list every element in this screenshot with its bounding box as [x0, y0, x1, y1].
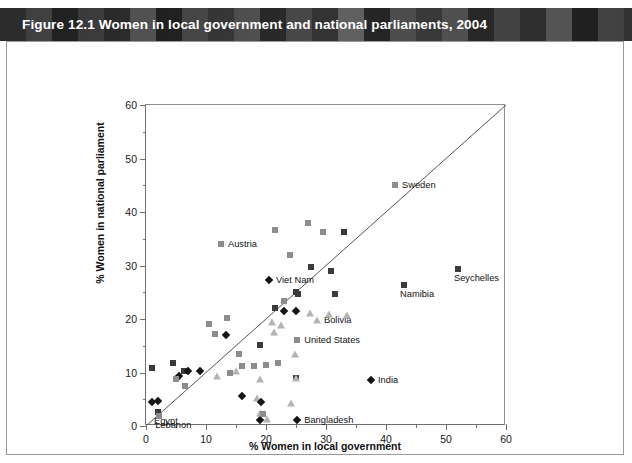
y-axis-tick-label: 30 — [125, 260, 137, 272]
data-point-africa — [308, 264, 314, 270]
data-point-developed-regions — [320, 229, 326, 235]
data-point-developed-regions — [218, 241, 224, 247]
x-axis-minor-tick — [236, 424, 237, 428]
data-point-africa — [341, 229, 347, 235]
data-point-developed-regions — [206, 321, 212, 327]
data-point-label: Bangladesh — [304, 415, 353, 425]
data-point-developed-regions — [236, 351, 242, 357]
data-point-latin-america-and-the-caribbean — [270, 329, 278, 336]
y-axis-minor-tick — [143, 132, 147, 133]
data-point-latin-america-and-the-caribbean — [213, 373, 221, 380]
data-point-africa — [455, 266, 461, 272]
data-point-label: Namibia — [400, 289, 434, 299]
x-axis-tick-label: 40 — [380, 433, 392, 445]
figure-title: Figure 12.1 Women in local government an… — [22, 17, 487, 32]
data-point-developed-regions — [275, 360, 281, 366]
x-axis-tick — [506, 424, 507, 430]
x-axis-minor-tick — [356, 424, 357, 428]
data-point-africa — [257, 342, 263, 348]
data-point-developed-regions — [305, 220, 311, 226]
x-axis-tick — [326, 424, 327, 430]
x-axis-tick-label: 60 — [500, 433, 512, 445]
y-axis-tick — [140, 373, 146, 374]
data-point-africa — [170, 360, 176, 366]
data-point-latin-america-and-the-caribbean — [313, 317, 321, 324]
data-point-africa — [272, 305, 278, 311]
y-axis-tick — [140, 159, 146, 160]
data-point-developed-regions — [260, 411, 266, 417]
data-point-developed-regions — [156, 413, 162, 419]
data-point-latin-america-and-the-caribbean — [268, 318, 276, 325]
figure-page: Figure 12.1 Women in local government an… — [0, 0, 632, 463]
data-point-developed-regions — [251, 363, 257, 369]
data-point-label: Lebanon — [155, 420, 191, 430]
data-point-developed-regions — [212, 331, 218, 337]
figure-card: % Women in national parliament % Women i… — [6, 41, 624, 455]
scatter-plot-area: 01020304050600102030405060EgyptNamibiaSe… — [145, 104, 505, 425]
x-axis-tick-label: 0 — [143, 433, 149, 445]
y-axis-minor-tick — [143, 185, 147, 186]
y-axis-tick-label: 0 — [131, 420, 137, 432]
data-point-label: Viet Nam — [276, 275, 314, 285]
data-point-developed-regions — [227, 370, 233, 376]
data-point-latin-america-and-the-caribbean — [343, 311, 351, 318]
x-axis-tick-label: 50 — [440, 433, 452, 445]
data-point-developed-regions — [239, 363, 245, 369]
data-point-label: India — [378, 375, 398, 385]
y-axis-tick — [140, 212, 146, 213]
data-point-latin-america-and-the-caribbean — [277, 322, 285, 329]
y-axis-tick-label: 20 — [125, 313, 137, 325]
data-point-developed-regions — [287, 252, 293, 258]
x-axis-tick — [146, 424, 147, 430]
figure-banner: Figure 12.1 Women in local government an… — [0, 8, 632, 41]
data-point-latin-america-and-the-caribbean — [256, 375, 264, 382]
y-axis-minor-tick — [143, 399, 147, 400]
y-axis-tick — [140, 105, 146, 106]
x-axis-tick — [266, 424, 267, 430]
y-axis-minor-tick — [143, 239, 147, 240]
data-point-africa — [295, 291, 301, 297]
data-point-latin-america-and-the-caribbean — [291, 350, 299, 357]
data-point-latin-america-and-the-caribbean — [306, 309, 314, 316]
x-axis-tick — [446, 424, 447, 430]
y-axis-minor-tick — [143, 346, 147, 347]
y-axis-tick — [140, 319, 146, 320]
y-axis-tick — [140, 266, 146, 267]
data-point-label: Seychelles — [454, 273, 499, 283]
data-point-developed-regions — [182, 383, 188, 389]
x-axis-minor-tick — [416, 424, 417, 428]
data-point-developed-regions — [263, 362, 269, 368]
y-axis-minor-tick — [143, 292, 147, 293]
y-axis-tick-label: 10 — [125, 367, 137, 379]
x-axis-tick-label: 30 — [320, 433, 332, 445]
data-point-developed-regions — [224, 315, 230, 321]
y-axis-tick-label: 60 — [125, 99, 137, 111]
data-point-developed-regions — [173, 376, 179, 382]
data-point-developed-regions — [294, 337, 300, 343]
data-point-latin-america-and-the-caribbean — [325, 310, 333, 317]
data-point-africa — [401, 282, 407, 288]
data-point-latin-america-and-the-caribbean — [292, 374, 300, 381]
data-point-developed-regions — [272, 227, 278, 233]
y-axis-tick-label: 50 — [125, 153, 137, 165]
data-point-label: United States — [304, 335, 360, 345]
data-point-latin-america-and-the-caribbean — [287, 399, 295, 406]
data-point-label: Austria — [228, 239, 257, 249]
y-axis-title: % Women in national parliament — [94, 103, 106, 303]
data-point-developed-regions — [392, 182, 398, 188]
parity-reference-line — [146, 105, 506, 426]
data-point-africa — [332, 291, 338, 297]
data-point-developed-regions — [281, 298, 287, 304]
x-axis-tick-label: 20 — [260, 433, 272, 445]
x-axis-minor-tick — [476, 424, 477, 428]
x-axis-tick — [386, 424, 387, 430]
data-point-africa — [328, 268, 334, 274]
x-axis-tick-label: 10 — [200, 433, 212, 445]
data-point-africa — [149, 365, 155, 371]
data-point-label: Sweden — [402, 180, 436, 190]
y-axis-tick-label: 40 — [125, 206, 137, 218]
x-axis-tick — [206, 424, 207, 430]
